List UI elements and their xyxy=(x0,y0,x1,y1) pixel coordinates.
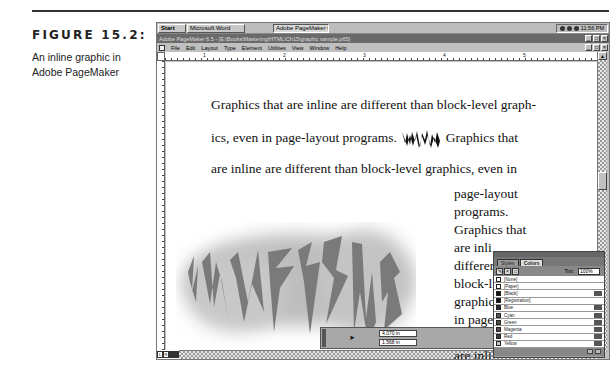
swatch-yellow[interactable]: Yellow xyxy=(494,341,604,348)
swatch-none[interactable]: [None] xyxy=(494,276,604,283)
stroke-icon[interactable]: ✎ xyxy=(496,268,503,275)
menu-help[interactable]: Help xyxy=(335,45,346,51)
process-color-icon xyxy=(594,313,602,318)
swatch-blue[interactable]: Blue xyxy=(494,305,604,312)
tray-icon[interactable] xyxy=(567,26,572,31)
swatch-chip xyxy=(496,305,501,310)
tab-styles[interactable]: Styles xyxy=(497,259,519,266)
column-text-line[interactable]: graphic xyxy=(454,294,494,310)
menu-file[interactable]: File xyxy=(171,45,180,51)
text-span: ics, even in page-layout programs. xyxy=(211,130,397,145)
taskbar-item-word[interactable]: Microsoft Word xyxy=(187,24,245,33)
tray-icon[interactable] xyxy=(560,26,565,31)
figure-caption: FIGURE 15.2: An inline graphic in Adobe … xyxy=(32,28,150,80)
swatch-chip xyxy=(496,334,501,339)
inline-advertising-graphic[interactable] xyxy=(401,129,441,149)
taskbar-item-pagemaker[interactable]: Adobe PageMaker 6.5 - [E... xyxy=(273,24,329,33)
text-line[interactable]: ics, even in page-layout programs. Graph… xyxy=(211,129,518,149)
pointer-tool-icon[interactable]: ➤ xyxy=(349,334,355,342)
tint-label: Tint: xyxy=(564,268,574,274)
maximize-button[interactable]: □ xyxy=(593,35,600,42)
doc-close-button[interactable]: × xyxy=(601,44,608,51)
menu-layout[interactable]: Layout xyxy=(201,45,218,51)
swatch-cyan[interactable]: Cyan xyxy=(494,312,604,319)
swatch-chip xyxy=(496,277,501,282)
menu-element[interactable]: Element xyxy=(242,45,262,51)
swatch-chip xyxy=(496,284,501,289)
ruler-label: 1 xyxy=(203,52,206,58)
window-title: Adobe PageMaker 6.5 - [E:\Books\Masterin… xyxy=(159,36,350,42)
minimize-button[interactable]: _ xyxy=(585,35,592,42)
menu-utilities[interactable]: Utilities xyxy=(268,45,286,51)
swatch-red[interactable]: Red xyxy=(494,334,604,341)
process-color-icon xyxy=(594,327,602,332)
swatch-registration[interactable]: [Registration] xyxy=(494,298,604,305)
process-color-icon xyxy=(594,305,602,310)
column-text-line[interactable]: are inli xyxy=(454,240,492,256)
swatch-chip xyxy=(496,291,501,296)
swatch-chip xyxy=(496,327,501,332)
swatch-black[interactable]: [Black] xyxy=(494,290,604,297)
menu-view[interactable]: View xyxy=(292,45,304,51)
process-color-icon xyxy=(594,334,602,339)
swatch-chip xyxy=(496,298,501,303)
swatch-paper[interactable]: [Paper] xyxy=(494,283,604,290)
swatch-label: Magenta xyxy=(504,327,522,332)
both-icon[interactable]: □ xyxy=(512,268,519,275)
document-icon[interactable] xyxy=(159,45,165,51)
new-color-button[interactable] xyxy=(587,349,593,354)
figure-label: FIGURE 15.2: xyxy=(32,28,150,42)
swatch-chip xyxy=(496,313,501,318)
figure-description: An inline graphic in Adobe PageMaker xyxy=(32,50,150,80)
close-button[interactable]: × xyxy=(601,35,608,42)
menu-window[interactable]: Window xyxy=(310,45,330,51)
palette-grip[interactable] xyxy=(322,329,326,347)
swatch-label: [Black] xyxy=(504,291,518,296)
horizontal-ruler[interactable]: 1 2 3 4 5 xyxy=(165,52,597,61)
doc-maximize-button[interactable]: □ xyxy=(593,44,600,51)
column-text-line[interactable]: block-l xyxy=(454,276,492,292)
system-tray: 11:56 PM xyxy=(556,24,608,33)
start-button[interactable]: Start xyxy=(158,24,186,33)
column-text-line[interactable]: Graphics that xyxy=(454,222,526,238)
column-text-line[interactable]: in page xyxy=(454,312,493,328)
tray-icon[interactable] xyxy=(574,26,579,31)
vertical-ruler[interactable] xyxy=(157,61,165,353)
ruler-label: 5 xyxy=(523,52,526,58)
screenshot: Start Microsoft Word Adobe PageMaker 6.5… xyxy=(156,22,610,360)
menu-type[interactable]: Type xyxy=(224,45,236,51)
swatch-label: Cyan xyxy=(504,313,515,318)
column-text-line[interactable]: are inli xyxy=(454,348,492,360)
scroll-up-button[interactable]: ▲ xyxy=(598,52,607,60)
text-line[interactable]: are inline are different than block-leve… xyxy=(211,161,517,177)
swatch-label: Red xyxy=(504,334,512,339)
start-label: Start xyxy=(161,25,175,31)
process-color-icon xyxy=(594,341,602,346)
process-color-icon xyxy=(594,291,602,296)
delete-color-button[interactable] xyxy=(595,349,601,354)
clock: 11:56 PM xyxy=(581,25,604,31)
colors-palette: Styles Colors ✎ × □ Tint: 100% [None] [P… xyxy=(493,251,605,358)
ruler-origin[interactable] xyxy=(157,52,165,61)
tab-colors[interactable]: Colors xyxy=(520,259,544,266)
doc-minimize-button[interactable]: _ xyxy=(585,44,592,51)
column-text-line[interactable]: page-layout xyxy=(454,186,518,202)
swatch-magenta[interactable]: Magenta xyxy=(494,326,604,333)
swatch-chip xyxy=(496,341,501,346)
page-1-icon[interactable] xyxy=(169,351,179,358)
text-line[interactable]: Graphics that are inline are different t… xyxy=(211,97,536,113)
column-text-line[interactable]: programs. xyxy=(454,204,508,220)
swatch-green[interactable]: Green xyxy=(494,319,604,326)
fill-icon[interactable]: × xyxy=(504,268,511,275)
text-span: Graphics that xyxy=(446,130,518,145)
task-label: Adobe PageMaker 6.5 - [E... xyxy=(276,25,329,31)
task-label: Microsoft Word xyxy=(190,25,230,31)
x-position-field[interactable]: 4.070 in xyxy=(379,330,417,337)
swatch-label: [Paper] xyxy=(504,284,519,289)
y-position-field[interactable]: 1.568 in xyxy=(379,339,417,346)
ruler-label: 2 xyxy=(283,52,286,58)
menu-edit[interactable]: Edit xyxy=(186,45,195,51)
scroll-thumb[interactable] xyxy=(598,172,607,190)
column-text-line[interactable]: differer xyxy=(454,258,494,274)
tint-dropdown[interactable]: 100% xyxy=(578,268,600,275)
